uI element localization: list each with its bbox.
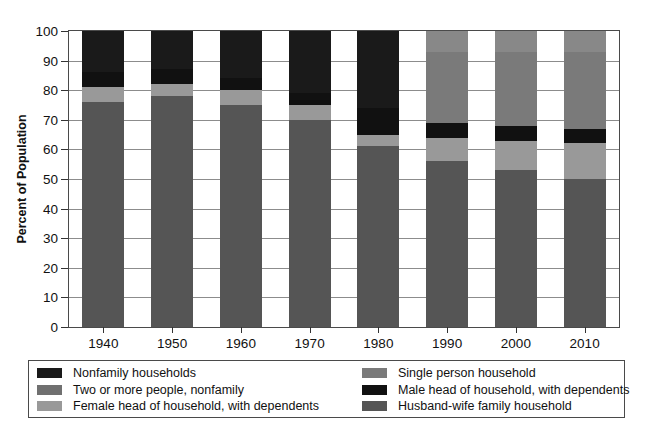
chart-legend: Nonfamily householdsTwo or more people, … <box>28 360 625 418</box>
y-axis-tick-mark <box>61 327 68 328</box>
x-axis-tick-label: 2000 <box>501 336 531 351</box>
bar-segment[interactable] <box>357 108 399 135</box>
legend-item-label: Female head of household, with dependent… <box>73 400 319 413</box>
y-axis-tick-mark <box>61 268 68 269</box>
y-axis-tick-mark <box>61 209 68 210</box>
bar-segment[interactable] <box>151 31 193 69</box>
legend-item-label: Husband-wife family household <box>398 400 572 413</box>
x-axis-tick-mark <box>310 327 311 333</box>
legend-item[interactable]: Two or more people, nonfamily <box>37 382 319 399</box>
bar-segment[interactable] <box>82 102 124 327</box>
y-axis-tick-label: 10 <box>43 290 58 305</box>
bar-1940[interactable]: 1940 <box>82 31 124 327</box>
x-axis-tick-mark <box>103 327 104 333</box>
bar-1970[interactable]: 1970 <box>289 31 331 327</box>
y-axis-tick-label: 70 <box>43 112 58 127</box>
bar-segment[interactable] <box>495 126 537 141</box>
legend-swatch-icon <box>37 401 62 411</box>
legend-item-label: Two or more people, nonfamily <box>73 384 244 397</box>
x-axis-tick-label: 1940 <box>88 336 118 351</box>
y-axis-tick-label: 90 <box>43 53 58 68</box>
bar-segment[interactable] <box>357 31 399 108</box>
y-axis-tick-label: 50 <box>43 172 58 187</box>
y-axis-tick-mark <box>61 61 68 62</box>
bar-segment[interactable] <box>357 146 399 327</box>
legend-item[interactable]: Female head of household, with dependent… <box>37 398 319 415</box>
bar-2010[interactable]: 2010 <box>564 31 606 327</box>
bar-1990[interactable]: 1990 <box>426 31 468 327</box>
y-axis-tick-mark <box>61 238 68 239</box>
x-axis-tick-mark <box>585 327 586 333</box>
y-axis-tick-label: 60 <box>43 142 58 157</box>
legend-swatch-icon <box>37 385 62 395</box>
bar-segment[interactable] <box>289 120 331 327</box>
legend-item[interactable]: Male head of household, with dependents <box>362 382 629 399</box>
y-axis-tick-label: 40 <box>43 201 58 216</box>
stacked-bar-chart: Percent of Population 010203040506070809… <box>0 0 653 446</box>
bar-segment[interactable] <box>564 129 606 144</box>
x-axis-tick-label: 2010 <box>570 336 600 351</box>
x-axis-tick-label: 1990 <box>432 336 462 351</box>
x-axis-tick-label: 1960 <box>226 336 256 351</box>
y-axis-tick-mark <box>61 31 68 32</box>
bar-segment[interactable] <box>357 135 399 147</box>
plot-area: 0102030405060708090100194019501960197019… <box>68 30 620 328</box>
bar-segment[interactable] <box>82 31 124 72</box>
y-axis-tick-mark <box>61 90 68 91</box>
x-axis-tick-mark <box>378 327 379 333</box>
bar-segment[interactable] <box>495 31 537 52</box>
bar-1980[interactable]: 1980 <box>357 31 399 327</box>
bar-segment[interactable] <box>564 31 606 52</box>
legend-item-label: Single person household <box>398 367 536 380</box>
bar-segment[interactable] <box>564 143 606 179</box>
bar-2000[interactable]: 2000 <box>495 31 537 327</box>
legend-column-left: Nonfamily householdsTwo or more people, … <box>37 365 319 415</box>
bar-segment[interactable] <box>426 161 468 327</box>
bar-segment[interactable] <box>289 105 331 120</box>
bar-segment[interactable] <box>220 78 262 90</box>
y-axis-tick-label: 20 <box>43 260 58 275</box>
bar-segment[interactable] <box>151 96 193 327</box>
y-axis-title: Percent of Population <box>15 114 29 243</box>
bar-segment[interactable] <box>495 141 537 171</box>
bar-segment[interactable] <box>289 31 331 93</box>
x-axis-tick-label: 1950 <box>157 336 187 351</box>
legend-item-label: Nonfamily households <box>73 367 196 380</box>
bar-segment[interactable] <box>220 90 262 105</box>
bar-segment[interactable] <box>495 52 537 126</box>
y-axis-tick-mark <box>61 297 68 298</box>
y-axis-tick-label: 80 <box>43 83 58 98</box>
bar-segment[interactable] <box>82 72 124 87</box>
legend-item[interactable]: Single person household <box>362 365 629 382</box>
legend-item[interactable]: Nonfamily households <box>37 365 319 382</box>
bar-segment[interactable] <box>426 138 468 162</box>
legend-swatch-icon <box>37 368 62 378</box>
bar-segment[interactable] <box>151 69 193 84</box>
bar-segment[interactable] <box>564 52 606 129</box>
bar-1960[interactable]: 1960 <box>220 31 262 327</box>
bar-segment[interactable] <box>426 52 468 123</box>
bar-segment[interactable] <box>289 93 331 105</box>
bar-1950[interactable]: 1950 <box>151 31 193 327</box>
y-axis-tick-mark <box>61 120 68 121</box>
x-axis-tick-mark <box>447 327 448 333</box>
y-axis-tick-label: 30 <box>43 231 58 246</box>
bar-segment[interactable] <box>82 87 124 102</box>
y-axis-tick-label: 100 <box>35 24 58 39</box>
bar-segment[interactable] <box>220 105 262 327</box>
bar-segment[interactable] <box>151 84 193 96</box>
legend-swatch-icon <box>362 401 387 411</box>
x-axis-tick-mark <box>241 327 242 333</box>
x-axis-tick-label: 1980 <box>363 336 393 351</box>
legend-item[interactable]: Husband-wife family household <box>362 398 629 415</box>
bar-segment[interactable] <box>495 170 537 327</box>
legend-swatch-icon <box>362 385 387 395</box>
bar-segment[interactable] <box>220 31 262 78</box>
bar-segment[interactable] <box>564 179 606 327</box>
bar-segment[interactable] <box>426 123 468 138</box>
x-axis-tick-mark <box>172 327 173 333</box>
y-axis-tick-mark <box>61 179 68 180</box>
legend-column-right: Single person householdMale head of hous… <box>362 365 629 415</box>
bar-segment[interactable] <box>426 31 468 52</box>
y-axis-tick-mark <box>61 149 68 150</box>
